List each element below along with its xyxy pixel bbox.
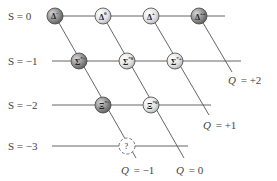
question-mark: ? (125, 142, 129, 151)
row-label: S = 0 (8, 10, 32, 22)
particle-xi-star-minus: Ξ*− (95, 97, 111, 113)
diagonal-line (55, 16, 136, 158)
diagonal-line (199, 16, 232, 72)
particle-unknown: ? (119, 138, 135, 154)
charge-label: Q = 0 (176, 164, 204, 176)
decuplet-diagram: S = 0 S = −1 S = −2 S = −3 Q = +2 Q (0, 0, 277, 181)
particle-delta-zero: Δ0 (95, 8, 111, 24)
particle-xi-star-zero: Ξ*0 (143, 97, 159, 113)
row-label: S = −1 (8, 55, 38, 67)
particles: Δ− Δ0 Δ+ Δ++ Σ*− Σ*0 Σ*+ Ξ*− (47, 8, 207, 154)
charge-label: Q = +2 (228, 74, 261, 86)
particle-delta-minus: Δ− (47, 8, 63, 24)
diagonal-line (103, 16, 184, 158)
charge-lines: Q = +2 Q = +1 Q = 0 Q = −1 (55, 16, 261, 176)
row-label: S = −3 (8, 140, 38, 152)
particle-delta-plus: Δ+ (143, 8, 159, 24)
charge-label: Q = +1 (203, 119, 236, 131)
particle-delta-plus-plus: Δ++ (191, 8, 207, 24)
particle-sigma-star-zero: Σ*0 (119, 53, 135, 69)
row-label: S = −2 (8, 99, 38, 111)
charge-line-q-plus2: Q = +2 (199, 16, 261, 86)
charge-line-q-minus1: Q = −1 (55, 16, 154, 176)
particle-sigma-star-minus: Σ*− (71, 53, 87, 69)
charge-line-q-plus1: Q = +1 (151, 16, 236, 131)
row-s-minus3: S = −3 (8, 140, 188, 152)
particle-sigma-star-plus: Σ*+ (167, 53, 183, 69)
charge-line-q-zero: Q = 0 (103, 16, 204, 176)
charge-label: Q = −1 (121, 164, 154, 176)
